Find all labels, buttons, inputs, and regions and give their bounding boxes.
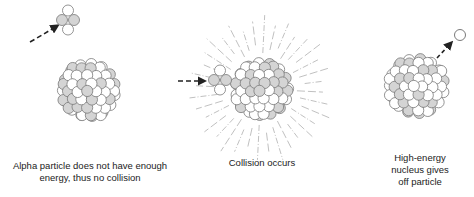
burst-ray	[305, 81, 323, 83]
neutron	[63, 5, 74, 16]
burst-ray	[257, 125, 259, 160]
alpha-trajectory-arrow	[30, 26, 57, 42]
proton	[221, 75, 232, 86]
caption-line: Alpha particle does not have enough	[0, 160, 180, 172]
proton	[82, 85, 93, 96]
proton	[69, 15, 80, 26]
burst-ray	[278, 24, 288, 49]
burst-ray	[222, 37, 235, 54]
alpha-particle	[57, 5, 80, 35]
burst-ray	[302, 106, 330, 118]
burst-ray	[270, 26, 276, 50]
neutron	[215, 84, 226, 95]
burst-ray	[288, 39, 307, 60]
burst-ray	[221, 119, 242, 151]
burst-ray	[281, 37, 295, 59]
emitted-particle	[455, 30, 466, 41]
panel-no-collision	[30, 5, 120, 121]
caption-line: nucleus gives	[380, 164, 460, 176]
burst-ray	[273, 127, 283, 159]
burst-ray	[296, 44, 320, 62]
proton	[57, 15, 68, 26]
target-nucleus	[231, 58, 294, 121]
excited-nucleus	[384, 54, 449, 119]
burst-ray	[235, 130, 244, 152]
panel-collision	[178, 15, 329, 160]
burst-ray	[243, 30, 249, 51]
neutron	[215, 65, 226, 76]
burst-ray	[207, 39, 232, 62]
burst-ray	[204, 116, 226, 132]
proton	[209, 75, 220, 86]
burst-ray	[263, 15, 265, 53]
proton	[254, 85, 265, 96]
burst-ray	[300, 98, 327, 104]
burst-ray	[217, 118, 234, 136]
panel-emission	[384, 30, 465, 119]
caption-line: off particle	[380, 176, 460, 188]
caption-collision: Collision occurs	[212, 157, 312, 169]
caption-no-collision: Alpha particle does not have enough ener…	[0, 160, 180, 184]
burst-ray	[247, 128, 252, 149]
neutron	[63, 24, 74, 35]
burst-ray	[277, 121, 292, 149]
burst-ray	[253, 22, 256, 46]
emission-trajectory-arrow	[437, 43, 451, 58]
caption-line: energy, thus no collision	[0, 172, 180, 184]
burst-ray	[299, 68, 329, 77]
burst-ray	[229, 26, 245, 57]
burst-ray	[196, 101, 223, 109]
burst-ray	[188, 94, 218, 98]
burst-ray	[288, 124, 299, 138]
burst-ray	[297, 91, 323, 92]
caption-line: High-energy	[380, 152, 460, 164]
burst-ray	[290, 116, 313, 137]
caption-line: Collision occurs	[212, 157, 312, 169]
burst-ray	[266, 133, 269, 154]
target-nucleus	[57, 58, 120, 121]
caption-emission: High-energy nucleus gives off particle	[380, 152, 460, 188]
neutron	[408, 80, 419, 91]
